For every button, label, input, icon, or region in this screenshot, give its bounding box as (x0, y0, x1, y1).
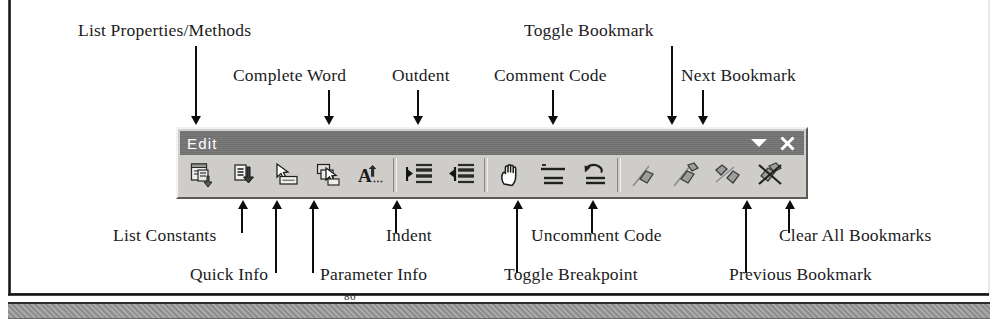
callout-outdent: Outdent (392, 65, 450, 86)
leader-next-bookmark (702, 90, 704, 118)
hand-icon (498, 162, 524, 188)
page-border-bottom (8, 293, 989, 296)
toggle-breakpoint-button[interactable] (493, 155, 528, 195)
leader-arrow-previous-bookmark (742, 200, 752, 209)
leader-arrow-complete-word (324, 116, 334, 125)
list-constants-button[interactable] (227, 155, 262, 195)
leader-arrow-list-constants (238, 200, 248, 209)
leader-arrow-quick-info (272, 200, 282, 209)
callout-next-bookmark: Next Bookmark (681, 65, 796, 86)
toggle-bookmark-icon (630, 162, 658, 188)
page-footer-bar (8, 302, 990, 319)
leader-arrow-next-bookmark (698, 116, 708, 125)
leader-toggle-bookmark (671, 46, 673, 118)
leader-arrow-parameter-info (309, 200, 319, 209)
leader-list-constants (241, 209, 243, 233)
complete-word-icon: A (357, 162, 385, 188)
outdent-icon (448, 162, 476, 188)
leader-arrow-indent (392, 200, 402, 209)
edit-toolbar-window[interactable]: Edit (176, 127, 808, 199)
comment-code-icon (539, 162, 567, 188)
uncomment-code-icon (581, 162, 609, 188)
toolbar-separator (484, 158, 488, 192)
clear-all-bookmarks-icon (756, 162, 784, 188)
leader-arrow-toggle-bookmark (667, 116, 677, 125)
quick-info-button[interactable] (269, 155, 304, 195)
outdent-button[interactable] (444, 155, 479, 195)
toolbar-window-controls (751, 136, 804, 151)
toolbar-separator (393, 158, 397, 192)
leader-parameter-info (312, 209, 314, 273)
page-border-left (8, 0, 11, 296)
leader-arrow-clear-all-bookmarks (785, 200, 795, 209)
close-icon[interactable] (780, 136, 795, 151)
next-bookmark-button[interactable] (668, 155, 703, 195)
list-constants-icon (232, 162, 258, 188)
page-border-right (988, 0, 990, 296)
next-bookmark-icon (672, 162, 700, 188)
leader-arrow-outdent (413, 116, 423, 125)
leader-arrow-list-properties-methods (191, 116, 201, 125)
toolbar-separator (617, 158, 621, 192)
uncomment-code-button[interactable] (577, 155, 612, 195)
indent-icon (406, 162, 434, 188)
previous-bookmark-icon (714, 162, 742, 188)
callout-parameter-info: Parameter Info (320, 264, 427, 285)
clear-all-bookmarks-button[interactable] (752, 155, 787, 195)
list-properties-methods-button[interactable] (185, 155, 220, 195)
leader-arrow-comment-code (548, 116, 558, 125)
callout-clear-all-bookmarks: Clear All Bookmarks (779, 225, 932, 246)
callout-list-properties-methods: List Properties/Methods (78, 20, 251, 41)
toolbar-title-bar[interactable]: Edit (180, 131, 804, 155)
parameter-info-icon (315, 162, 343, 188)
parameter-info-button[interactable] (311, 155, 346, 195)
chevron-down-icon[interactable] (751, 139, 767, 147)
callout-comment-code: Comment Code (494, 65, 607, 86)
previous-bookmark-button[interactable] (710, 155, 745, 195)
leader-quick-info (275, 209, 277, 273)
toolbar-button-strip: A (180, 155, 804, 195)
page-number: 86 (344, 290, 356, 302)
callout-complete-word: Complete Word (233, 65, 346, 86)
complete-word-button[interactable]: A (353, 155, 388, 195)
toggle-bookmark-button[interactable] (626, 155, 661, 195)
leader-complete-word (328, 90, 330, 118)
callout-uncomment-code: Uncomment Code (531, 225, 662, 246)
toolbar-title: Edit (180, 135, 218, 152)
leader-comment-code (552, 90, 554, 118)
callout-toggle-breakpoint: Toggle Breakpoint (504, 264, 638, 285)
callout-quick-info: Quick Info (190, 264, 268, 285)
callout-list-constants: List Constants (113, 225, 216, 246)
leader-arrow-toggle-breakpoint (513, 200, 523, 209)
quick-info-icon (273, 162, 301, 188)
leader-arrow-uncomment-code (588, 200, 598, 209)
leader-outdent (417, 90, 419, 118)
list-properties-methods-icon (190, 162, 216, 188)
callout-previous-bookmark: Previous Bookmark (729, 264, 872, 285)
callout-toggle-bookmark: Toggle Bookmark (524, 20, 654, 41)
indent-button[interactable] (402, 155, 437, 195)
callout-indent: Indent (386, 225, 432, 246)
comment-code-button[interactable] (535, 155, 570, 195)
leader-list-properties-methods (195, 46, 197, 118)
